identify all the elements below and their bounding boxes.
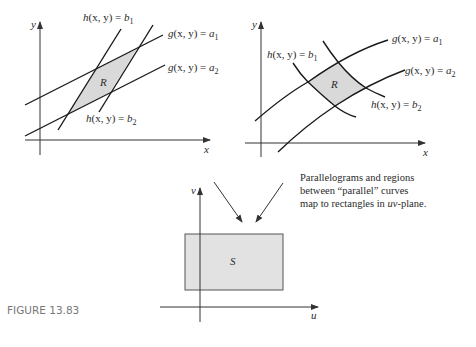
right-x-label: x [422, 146, 428, 158]
left-label-h-b2: h(x, y) = b2 [86, 112, 137, 127]
right-panel: y x R h(x, y) = b1 g(x, y) = a1 g(x, y) … [245, 18, 456, 158]
left-x-label: x [203, 143, 209, 155]
bottom-v-label: v [191, 184, 196, 196]
right-label-g-a1: g(x, y) = a1 [392, 32, 443, 47]
left-label-g-a1: g(x, y) = a1 [168, 27, 219, 42]
right-label-h-b1: h(x, y) = b1 [267, 48, 318, 63]
caption-line-3: map to rectangles in uv-plane. [300, 198, 426, 209]
left-y-label: y [30, 18, 36, 30]
left-region-label: R [99, 76, 107, 88]
caption-line-2: between “parallel” curves [300, 185, 408, 196]
left-label-g-a2: g(x, y) = a2 [168, 61, 219, 76]
left-label-h-b1: h(x, y) = b1 [83, 11, 134, 26]
bottom-u-label: u [311, 309, 317, 321]
figure-label: FIGURE 13.83 [7, 304, 79, 316]
bottom-panel: v u S [160, 184, 318, 322]
right-label-g-a2: g(x, y) = a2 [405, 64, 456, 79]
bottom-region-label: S [230, 255, 236, 267]
left-panel: y x R h(x, y) = b1 g(x, y) = a1 g(x, y) … [25, 11, 219, 155]
caption-line-1: Parallelograms and regions [300, 172, 414, 183]
right-label-h-b2: h(x, y) = b2 [371, 98, 422, 113]
figure-canvas: y x R h(x, y) = b1 g(x, y) = a1 g(x, y) … [0, 0, 476, 347]
right-y-label: y [251, 18, 257, 30]
arrow-from-right [256, 183, 283, 222]
right-region-label: R [330, 78, 338, 90]
arrow-from-left [214, 182, 242, 222]
